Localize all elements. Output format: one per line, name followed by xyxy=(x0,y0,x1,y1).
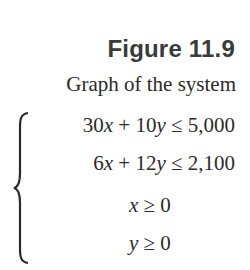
rhs-value: 0 xyxy=(160,193,171,217)
left-brace-icon xyxy=(12,111,32,265)
variable: y xyxy=(156,151,165,175)
variable: x xyxy=(104,113,113,137)
rhs-value: 2,100 xyxy=(188,151,235,175)
operator: + xyxy=(113,113,135,137)
variable: x xyxy=(104,151,113,175)
rhs-value: 0 xyxy=(160,231,171,255)
relation: ≤ xyxy=(166,151,188,175)
figure-caption: Graph of the system xyxy=(66,72,236,96)
relation: ≥ xyxy=(138,231,160,255)
variable: y xyxy=(129,231,138,255)
inequality-4: y ≥ 0 xyxy=(129,231,171,255)
inequality-3: x ≥ 0 xyxy=(129,193,171,217)
inequality-1: 30x + 10y ≤ 5,000 xyxy=(83,113,235,137)
coefficient: 6 xyxy=(93,151,104,175)
figure-label: Figure 11.9 xyxy=(107,36,235,62)
inequality-2: 6x + 12y ≤ 2,100 xyxy=(93,151,235,175)
variable: x xyxy=(129,193,138,217)
variable: y xyxy=(156,113,165,137)
coefficient: 12 xyxy=(135,151,156,175)
operator: + xyxy=(113,151,135,175)
relation: ≤ xyxy=(166,113,188,137)
relation: ≥ xyxy=(138,193,160,217)
rhs-value: 5,000 xyxy=(188,113,235,137)
coefficient: 10 xyxy=(135,113,156,137)
coefficient: 30 xyxy=(83,113,104,137)
